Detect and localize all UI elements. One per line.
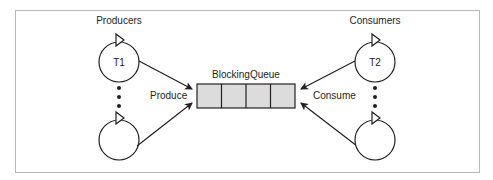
producer-thread-n <box>99 112 139 160</box>
thread-circle <box>355 120 395 160</box>
consume-label: Consume <box>313 90 356 101</box>
queue-label: BlockingQueue <box>212 69 280 80</box>
ellipsis-dots <box>373 86 377 108</box>
produce-arrow <box>137 103 192 146</box>
blocking-queue-diagram: Producers T1 Produce BlockingQueue Consu… <box>0 0 493 180</box>
producers-label: Producers <box>96 15 142 26</box>
consume-arrow <box>301 103 357 146</box>
produce-label: Produce <box>150 90 188 101</box>
thread-label: T1 <box>113 57 125 68</box>
producer-thread-t1: T1 <box>99 34 139 82</box>
thread-circle <box>99 120 139 160</box>
blocking-queue <box>197 84 295 108</box>
consume-arrow <box>301 61 355 89</box>
consumer-thread-n <box>355 112 395 160</box>
produce-arrow <box>139 61 192 89</box>
consumers-label: Consumers <box>349 15 400 26</box>
thread-label: T2 <box>369 57 381 68</box>
consumer-thread-t2: T2 <box>355 34 395 82</box>
ellipsis-dots <box>117 86 121 108</box>
